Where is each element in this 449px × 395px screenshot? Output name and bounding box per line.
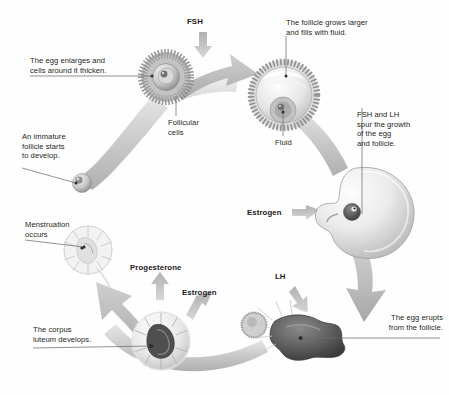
stage-antral-follicle	[249, 60, 319, 130]
callout-egg-erupts: The egg erupts from the follicle.	[355, 313, 443, 332]
hormone-arrow-fsh	[194, 32, 212, 58]
callout-corpus-luteum: The corpus luteum develops.	[33, 325, 119, 344]
stage-mature-follicle	[315, 167, 414, 258]
hormone-label-estrogen-mid: Estrogen	[182, 288, 217, 297]
callout-follicle-grows: The follicle grows larger and fills with…	[286, 18, 414, 37]
callout-immature-follicle: An immature follicle starts to develop.	[22, 132, 102, 161]
leader-immature	[22, 168, 76, 183]
callout-fsh-lh-spur: FSH and LH spur the growth of the egg an…	[357, 110, 443, 148]
callout-fluid: Fluid	[275, 138, 315, 148]
hormone-label-estrogen-right: Estrogen	[247, 208, 282, 217]
hormone-label-progesterone: Progesterone	[130, 263, 181, 272]
callout-follicular-cells: Follicular cells	[168, 118, 228, 137]
ovarian-cycle-diagram: The egg enlarges and cells around it thi…	[0, 0, 449, 395]
hormone-arrow-progesterone	[151, 272, 169, 300]
hormone-label-lh: LH	[275, 272, 286, 281]
stage-corpus-luteum	[132, 312, 190, 370]
callout-menstruation: Menstruation occurs	[25, 220, 105, 239]
hormone-label-fsh: FSH	[187, 17, 203, 26]
callout-egg-enlarges: The egg enlarges and cells around it thi…	[30, 56, 150, 75]
